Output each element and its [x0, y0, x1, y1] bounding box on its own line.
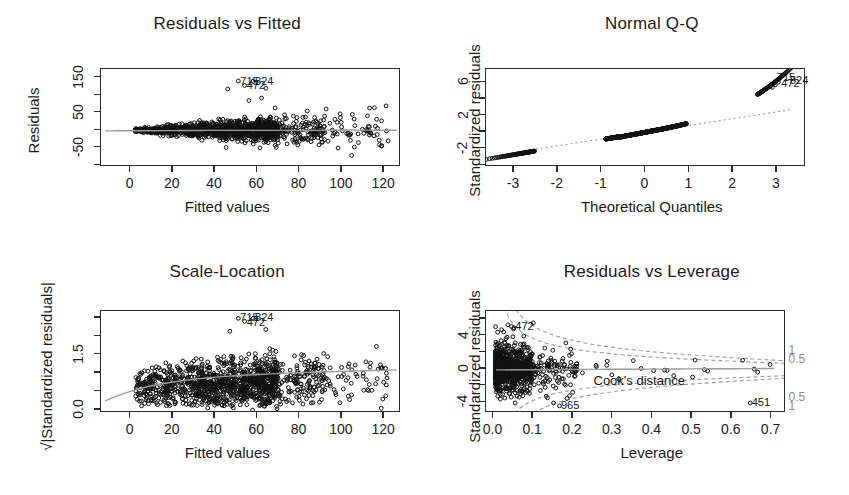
- x-axis-tick: [775, 166, 776, 172]
- y-axis-tick: [94, 146, 100, 147]
- y-axis-tick-label: -2: [451, 140, 475, 156]
- panel-residuals-vs-leverage: Residuals vs Leverage Standardized resid…: [425, 248, 849, 495]
- x-axis-label: Fitted values: [40, 444, 415, 461]
- y-axis-minor-tick: [94, 371, 100, 372]
- y-axis-tick: [479, 81, 485, 82]
- x-axis-tick-label: 0.0: [483, 421, 502, 437]
- diagnostic-plot-figure: Residuals vs Fitted Residuals 715824472 …: [0, 0, 849, 495]
- x-axis-tick-label: -2: [551, 175, 563, 191]
- point-label: 472: [247, 316, 265, 328]
- plot-area: Cook's distance 472965451: [485, 310, 785, 412]
- x-axis-tick: [644, 166, 645, 172]
- y-axis-tick: [479, 401, 485, 402]
- y-axis-tick-label: -4: [451, 393, 475, 409]
- x-axis-tick-label: 60: [249, 175, 265, 191]
- x-axis-tick-label: 120: [371, 175, 394, 191]
- y-axis-tick-label: 4: [451, 327, 475, 343]
- y-axis-label: √|Standardized residuals|: [38, 258, 55, 474]
- y-axis-tick: [479, 334, 485, 335]
- panel-normal-qq: Normal Q-Q Standardized residuals 715824…: [425, 0, 849, 248]
- x-axis-tick-label: 0.5: [681, 421, 700, 437]
- x-axis-tick: [382, 412, 383, 418]
- y-axis-minor-tick: [94, 390, 100, 391]
- y-axis-minor-tick: [94, 335, 100, 336]
- panel-residuals-vs-fitted: Residuals vs Fitted Residuals 715824472 …: [0, 0, 425, 248]
- x-axis-tick-label: 20: [164, 175, 180, 191]
- x-axis-tick-label: -1: [594, 175, 606, 191]
- x-axis-tick: [600, 166, 601, 172]
- x-axis-tick-label: 80: [291, 421, 307, 437]
- x-axis-tick-label: 0.3: [602, 421, 621, 437]
- x-axis-tick: [770, 412, 771, 418]
- x-axis-tick: [171, 166, 172, 172]
- x-axis-tick: [731, 166, 732, 172]
- point-label: 965: [561, 399, 579, 411]
- x-axis-tick: [298, 166, 299, 172]
- x-axis-tick: [340, 166, 341, 172]
- x-axis-tick-label: -3: [507, 175, 519, 191]
- y-axis-tick: [479, 147, 485, 148]
- x-axis-tick-label: 100: [329, 175, 352, 191]
- point-label: 472: [515, 320, 533, 332]
- cooks-contour-label: 1: [789, 399, 796, 413]
- x-axis-tick-label: 3: [772, 175, 780, 191]
- x-axis-tick: [171, 412, 172, 418]
- x-axis-tick: [340, 412, 341, 418]
- y-axis-minor-tick: [94, 164, 100, 165]
- y-axis-tick-label: 2: [451, 107, 475, 123]
- x-axis-label: Fitted values: [40, 198, 415, 215]
- x-axis-tick-label: 0.4: [642, 421, 661, 437]
- x-axis-tick-label: 0: [126, 421, 134, 437]
- plot-area: 715824472: [100, 310, 400, 412]
- y-axis-minor-tick: [479, 164, 485, 165]
- x-axis-tick: [492, 412, 493, 418]
- point-label: 472: [247, 79, 265, 91]
- y-axis-tick-label: 50: [66, 104, 90, 120]
- y-axis-tick: [94, 353, 100, 354]
- x-axis-tick-label: 40: [206, 175, 222, 191]
- panel-title: Scale-Location: [40, 262, 415, 282]
- y-axis-minor-tick: [479, 317, 485, 318]
- panel-title: Normal Q-Q: [465, 14, 840, 34]
- y-axis-minor-tick: [479, 384, 485, 385]
- y-axis-minor-tick: [94, 316, 100, 317]
- y-axis-tick: [94, 76, 100, 77]
- scatter-points: [486, 69, 804, 165]
- y-axis-tick-label: 150: [66, 69, 90, 85]
- x-axis-tick: [571, 412, 572, 418]
- plot-area: 715824472: [485, 68, 805, 166]
- x-axis-tick: [129, 412, 130, 418]
- x-axis-tick: [651, 412, 652, 418]
- panel-scale-location: Scale-Location √|Standardized residuals|…: [0, 248, 425, 495]
- x-axis-tick: [256, 412, 257, 418]
- y-axis-tick-label: 0: [451, 360, 475, 376]
- x-axis-tick-label: 0.1: [522, 421, 541, 437]
- cooks-distance-legend: Cook's distance: [594, 373, 685, 388]
- y-axis-minor-tick: [479, 97, 485, 98]
- x-axis-tick-label: 0.6: [721, 421, 740, 437]
- x-axis-tick: [690, 412, 691, 418]
- x-axis-tick-label: 0.2: [562, 421, 581, 437]
- y-axis-label: Residuals: [25, 66, 42, 176]
- x-axis-tick-label: 0: [641, 175, 649, 191]
- x-axis-tick: [556, 166, 557, 172]
- cooks-contour-label: 0.5: [789, 352, 806, 366]
- x-axis-tick-label: 0: [126, 175, 134, 191]
- x-axis-tick: [129, 166, 130, 172]
- x-axis-label: Theoretical Quantiles: [465, 198, 840, 215]
- x-axis-tick-label: 20: [164, 421, 180, 437]
- x-axis-tick-label: 60: [249, 421, 265, 437]
- x-axis-tick-label: 100: [329, 421, 352, 437]
- y-axis-tick-label: 0.0: [66, 401, 90, 417]
- x-axis-tick-label: 80: [291, 175, 307, 191]
- y-axis-tick-label: 6: [451, 73, 475, 89]
- panel-title: Residuals vs Fitted: [40, 14, 415, 34]
- y-axis-tick: [479, 367, 485, 368]
- y-axis-minor-tick: [94, 129, 100, 130]
- y-axis-minor-tick: [479, 130, 485, 131]
- x-axis-tick: [688, 166, 689, 172]
- x-axis-tick-label: 40: [206, 421, 222, 437]
- x-axis-label: Leverage: [465, 444, 840, 461]
- x-axis-tick: [531, 412, 532, 418]
- x-axis-tick-label: 120: [371, 421, 394, 437]
